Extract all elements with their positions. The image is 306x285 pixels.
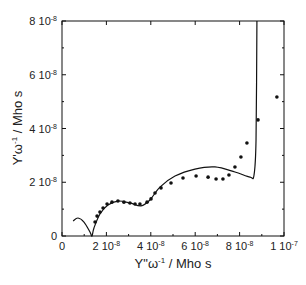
data-point bbox=[138, 202, 142, 206]
y-tick-label: 2 10-8 bbox=[29, 176, 57, 188]
fit-curve bbox=[73, 21, 257, 236]
data-point bbox=[206, 175, 210, 179]
data-point bbox=[245, 141, 249, 145]
data-point bbox=[145, 200, 149, 204]
data-point bbox=[98, 210, 102, 214]
data-point bbox=[194, 174, 198, 178]
data-point bbox=[256, 118, 260, 122]
data-point bbox=[116, 199, 120, 203]
data-point bbox=[153, 191, 157, 195]
x-axis-ticks: 02 10-84 10-86 10-88 10-81 10-7 bbox=[59, 21, 298, 252]
data-point bbox=[227, 173, 231, 177]
plot-frame bbox=[62, 21, 284, 236]
x-tick-label: 4 10-8 bbox=[137, 240, 165, 252]
data-points bbox=[93, 95, 278, 224]
data-point bbox=[105, 202, 109, 206]
y-axis-ticks: 02 10-84 10-86 10-88 10-8 bbox=[29, 15, 284, 242]
fit-line bbox=[73, 21, 257, 236]
data-point bbox=[122, 200, 126, 204]
x-tick-label: 2 10-8 bbox=[93, 240, 121, 252]
x-tick-label: 8 10-8 bbox=[226, 240, 254, 252]
data-point bbox=[239, 155, 243, 159]
data-point bbox=[110, 200, 114, 204]
data-point bbox=[95, 214, 99, 218]
y-tick-label: 0 bbox=[51, 230, 57, 242]
data-point bbox=[169, 181, 173, 185]
y-tick-label: 8 10-8 bbox=[29, 15, 57, 27]
data-point bbox=[101, 206, 105, 210]
data-point bbox=[233, 165, 237, 169]
data-point bbox=[149, 197, 153, 201]
data-point bbox=[128, 201, 132, 205]
x-tick-label: 1 10-7 bbox=[270, 240, 298, 252]
data-point bbox=[275, 95, 279, 99]
y-tick-label: 4 10-8 bbox=[29, 123, 57, 135]
data-point bbox=[159, 186, 163, 190]
data-point bbox=[133, 202, 137, 206]
data-point bbox=[93, 220, 97, 224]
data-point bbox=[181, 176, 185, 180]
impedance-chart: 02 10-84 10-86 10-88 10-81 10-7 02 10-84… bbox=[0, 0, 306, 285]
x-tick-label: 6 10-8 bbox=[181, 240, 209, 252]
data-point bbox=[214, 177, 218, 181]
x-axis-title: Y"ω-1 / Mho s bbox=[135, 256, 212, 271]
x-tick-label: 0 bbox=[59, 240, 65, 252]
data-point bbox=[221, 177, 225, 181]
y-tick-label: 6 10-8 bbox=[29, 69, 57, 81]
y-axis-title: Y'ω-1 / Mho s bbox=[10, 90, 25, 165]
